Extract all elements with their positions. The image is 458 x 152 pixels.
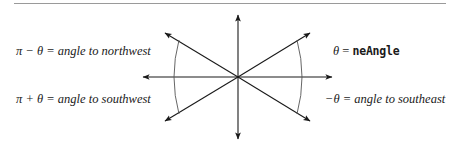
label-southeast-text: −θ = angle to southeast xyxy=(325,92,445,106)
axis-southeast xyxy=(238,77,310,121)
label-northeast-code: neAngle xyxy=(352,44,399,58)
label-northwest-text: π − θ = angle to northwest xyxy=(16,44,151,58)
label-southwest-text: π + θ = angle to southwest xyxy=(16,92,151,106)
angle-diagram-figure: π − θ = angle to northwest π + θ = angle… xyxy=(0,0,458,152)
label-northwest: π − θ = angle to northwest xyxy=(16,45,151,58)
label-southwest: π + θ = angle to southwest xyxy=(16,93,151,106)
label-southeast: −θ = angle to southeast xyxy=(325,93,445,106)
compass-diagram xyxy=(0,0,458,152)
label-northeast: θ = neAngle xyxy=(333,45,400,58)
axis-northeast xyxy=(238,33,310,77)
label-northeast-equals: = xyxy=(339,44,352,58)
